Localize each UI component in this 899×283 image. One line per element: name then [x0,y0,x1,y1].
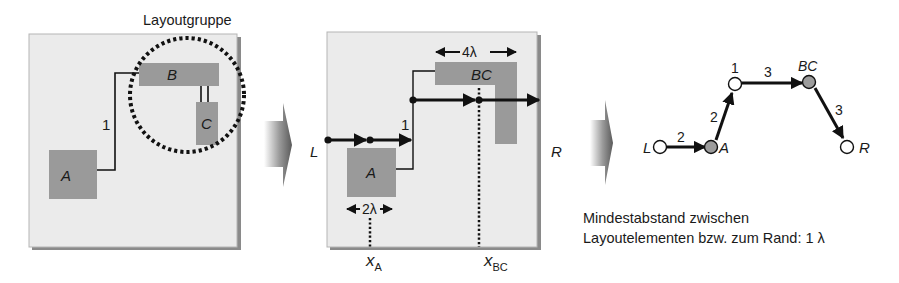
connection-label: 1 [102,116,110,133]
node-a-label: A [718,139,729,156]
node-l [654,141,667,154]
element-b [139,63,219,86]
node-bc [803,76,816,89]
node-a [705,141,718,154]
element-a-label: A [60,167,71,184]
edge-l-a-weight: 2 [677,129,685,145]
node-bc-label: BC [798,58,818,74]
caption: Mindestabstand zwischen Layoutelementen … [583,208,825,248]
caption-line-2: Layoutelementen bzw. zum Rand: 1 λ [583,228,825,248]
panel-original-layout [29,34,244,250]
edge-a-1 [716,93,732,140]
edge-1-bc-weight: 3 [764,64,772,80]
node-r [841,141,854,154]
left-border-label: L [310,143,318,160]
element-c-label: C [201,115,212,132]
transition-arrow-2 [590,100,613,185]
right-border-label: R [551,143,562,160]
width-bc-label: 4λ [462,44,477,60]
sweep-point-xbc [475,96,482,103]
element-a [49,150,97,199]
edge-a-1-weight: 2 [710,109,718,125]
connection-label: 1 [401,116,409,133]
panel-sweep-layout [324,32,541,250]
sweep-point-xa [366,136,373,143]
element-a-label: A [365,164,376,181]
edge-bc-r-weight: 3 [835,102,843,118]
sweep-point-l [324,136,331,143]
xa-label: xA [365,251,383,273]
layout-group-label: Layoutgruppe [143,12,232,28]
sweep-point-1 [409,96,416,103]
node-1-label: 1 [731,60,739,76]
element-b-label: B [167,66,177,83]
node-r-label: R [859,139,870,156]
node-1 [729,78,742,91]
node-l-label: L [643,139,651,156]
element-bc-leg [495,85,517,144]
width-a-label: 2λ [362,201,377,217]
element-bc-label: BC [471,66,492,83]
caption-line-1: Mindestabstand zwischen [583,208,825,228]
xbc-label: xBC [483,251,508,273]
transition-arrow-1 [264,103,292,187]
